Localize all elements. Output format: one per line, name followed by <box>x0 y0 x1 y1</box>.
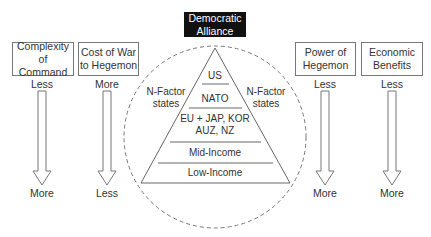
column-bottom-label: More <box>362 187 422 199</box>
tier-us: US <box>190 70 240 82</box>
box-line2: Hegemon <box>303 59 349 72</box>
tier-low-income: Low-Income <box>165 167 265 179</box>
side-label-line1: N-Factor <box>240 86 292 98</box>
side-label-line1: N-Factor <box>140 86 192 98</box>
down-arrow-icon <box>98 91 116 185</box>
column-box-cost-of-war: Cost of War to Hegemon <box>78 42 139 76</box>
column-bottom-label: More <box>12 187 72 199</box>
side-label-line2: states <box>240 98 292 110</box>
down-arrow-icon <box>383 91 401 185</box>
column-bottom-label: Less <box>77 187 137 199</box>
column-top-label: Less <box>362 78 422 90</box>
side-label-line2: states <box>140 98 192 110</box>
column-top-label: Less <box>12 78 72 90</box>
column-box-power: Power of Hegemon <box>295 42 356 76</box>
header-line2: Alliance <box>188 25 241 38</box>
box-line1: Cost of War <box>80 46 137 59</box>
column-box-economic: Economic Benefits <box>361 42 423 76</box>
box-line2: to Hegemon <box>80 59 137 72</box>
column-top-label: More <box>77 78 137 90</box>
column-top-label: Less <box>295 78 355 90</box>
down-arrow-icon <box>316 91 334 185</box>
tier-eu-jap-kor: EU + JAP, KOR AUZ, NZ <box>165 113 265 137</box>
tier-nato: NATO <box>190 93 240 105</box>
tier-line2: AUZ, NZ <box>165 125 265 137</box>
box-line1: Complexity <box>13 40 73 53</box>
box-line2: of Command <box>13 53 73 79</box>
tier-line1: EU + JAP, KOR <box>165 113 265 125</box>
header-line1: Democratic <box>188 12 241 25</box>
box-line1: Power of <box>303 46 349 59</box>
tier-mid-income: Mid-Income <box>165 147 265 159</box>
democratic-alliance-header: Democratic Alliance <box>184 12 246 37</box>
box-line2: Benefits <box>369 59 415 72</box>
column-bottom-label: More <box>295 187 355 199</box>
down-arrow-icon <box>33 91 51 185</box>
n-factor-states-right: N-Factor states <box>240 86 292 110</box>
box-line1: Economic <box>369 46 415 59</box>
column-box-complexity: Complexity of Command <box>12 42 74 76</box>
n-factor-states-left: N-Factor states <box>140 86 192 110</box>
